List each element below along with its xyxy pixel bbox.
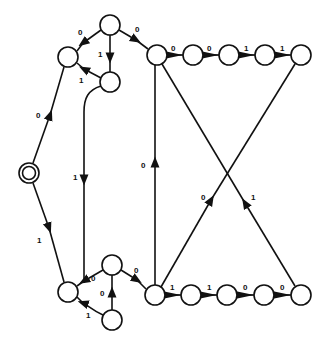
state-b1 xyxy=(58,282,78,302)
state-u1 xyxy=(145,285,165,305)
label-b3-b1: 1 xyxy=(86,311,91,320)
label-u1-t1: 0 xyxy=(141,161,146,170)
nodes xyxy=(19,15,311,330)
label-u1-u2: 1 xyxy=(170,283,175,292)
state-diagram: 0 0 1 1 0 0 0 1 1 1 1 0 1 0 0 1 1 0 0 0 … xyxy=(0,0,327,352)
edge-a3-b1 xyxy=(84,86,101,180)
edge-a2-a1 xyxy=(83,30,101,43)
label-b2-b1: 0 xyxy=(91,274,96,283)
state-b3 xyxy=(102,310,122,330)
start-state-inner xyxy=(23,167,36,180)
state-t1 xyxy=(147,45,167,65)
label-a2-t1: 0 xyxy=(135,25,140,34)
edge-a3-a1 xyxy=(84,69,101,78)
state-t4 xyxy=(255,45,275,65)
state-u4 xyxy=(254,285,274,305)
label-a3-b1: 1 xyxy=(73,173,78,182)
label-u1-t5: 0 xyxy=(201,193,206,202)
edge-s0-a1 xyxy=(33,115,50,163)
label-u4-u5: 0 xyxy=(280,283,285,292)
label-b3-b2: 0 xyxy=(100,289,105,298)
label-t3-t4: 1 xyxy=(244,44,249,53)
state-a1 xyxy=(58,47,78,67)
edge-a2-t1 xyxy=(119,30,136,40)
state-b2 xyxy=(102,255,122,275)
label-t1-t2: 0 xyxy=(171,44,176,53)
label-t4-t5: 1 xyxy=(280,44,285,53)
label-u3-u4: 0 xyxy=(243,283,248,292)
label-a2-a1: 0 xyxy=(78,28,83,37)
state-t3 xyxy=(219,45,239,65)
edge-u1-t5 xyxy=(161,200,211,287)
state-u5 xyxy=(291,285,311,305)
label-u5-t1: 1 xyxy=(251,193,256,202)
label-a2-a3: 1 xyxy=(98,50,103,59)
label-u2-u3: 1 xyxy=(207,283,212,292)
label-a3-a1: 1 xyxy=(79,76,84,85)
state-u3 xyxy=(217,285,237,305)
state-t5 xyxy=(291,45,311,65)
edge-s0-b1 xyxy=(33,183,49,228)
state-a2 xyxy=(100,15,120,35)
state-t2 xyxy=(183,45,203,65)
label-s0-b1: 1 xyxy=(37,236,42,245)
edge-labels: 0 0 1 1 0 0 0 1 1 1 1 0 1 0 0 1 1 0 0 0 … xyxy=(36,25,285,320)
state-a3 xyxy=(100,72,120,92)
label-s0-a1: 0 xyxy=(36,111,41,120)
state-u2 xyxy=(181,285,201,305)
label-t2-t3: 0 xyxy=(207,44,212,53)
edge-u5-t1 xyxy=(245,203,295,286)
label-b2-u1: 0 xyxy=(134,266,139,275)
